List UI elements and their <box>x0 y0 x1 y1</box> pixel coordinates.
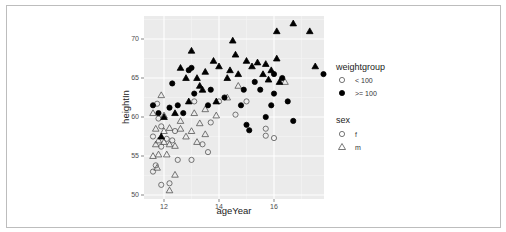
data-point-circle <box>271 91 276 96</box>
data-point-circle <box>181 111 186 116</box>
data-point-circle <box>321 72 326 77</box>
data-point-circle <box>192 91 197 96</box>
data-point-circle <box>280 75 285 80</box>
legend-key-triangle-icon <box>339 144 346 150</box>
data-point-circle <box>269 103 274 108</box>
data-point-circle <box>263 114 268 119</box>
y-tick-label: 65 <box>131 74 139 81</box>
data-point-circle <box>238 103 243 108</box>
data-point-circle <box>156 111 161 116</box>
y-axis: 5055606570 <box>131 35 144 198</box>
data-point-circle <box>205 103 210 108</box>
legend: weightgroup < 100 >= 100 sex f m <box>335 62 385 151</box>
y-tick-label: 55 <box>131 152 139 159</box>
data-point-circle <box>150 103 155 108</box>
legend-label-m: m <box>355 144 361 151</box>
data-point-circle <box>208 87 213 92</box>
legend-label-f: f <box>355 131 357 138</box>
legend-title-sex: sex <box>336 115 351 125</box>
data-point-circle <box>244 122 249 127</box>
y-tick-label: 50 <box>131 191 139 198</box>
data-point-circle <box>175 103 180 108</box>
data-point-circle <box>271 72 276 77</box>
data-point-circle <box>285 99 290 104</box>
data-point-circle <box>189 65 194 70</box>
legend-key-filled-circle-icon <box>339 90 344 95</box>
data-point-circle <box>170 81 175 86</box>
x-tick-label: 12 <box>160 203 168 210</box>
y-axis-title: heightIn <box>120 90 131 124</box>
data-point-circle <box>258 87 263 92</box>
legend-key-open-circle-icon <box>339 77 344 82</box>
x-axis-title: ageYear <box>216 205 251 216</box>
y-tick-label: 60 <box>131 113 139 120</box>
scatter-chart: 5055606570 121416 ageYear heightIn weigh… <box>0 0 506 232</box>
data-point-circle <box>222 95 227 100</box>
legend-label-ge100: >= 100 <box>355 90 377 97</box>
data-point-circle <box>241 87 246 92</box>
legend-label-lt100: < 100 <box>355 77 373 84</box>
data-point-circle <box>247 128 252 133</box>
legend-title-weightgroup: weightgroup <box>335 62 385 72</box>
legend-key-circle-icon <box>339 131 344 136</box>
data-point-circle <box>252 79 257 84</box>
y-tick-label: 70 <box>131 35 139 42</box>
data-point-circle <box>291 118 296 123</box>
data-point-circle <box>167 105 172 110</box>
x-tick-label: 16 <box>270 203 278 210</box>
